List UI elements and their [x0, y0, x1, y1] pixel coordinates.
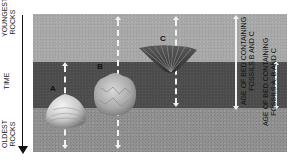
- fossil-b-range-arrow-down-icon: [115, 145, 121, 149]
- range-abc-label-line2: FOSSILS A, B AND C: [270, 36, 278, 128]
- fossil-a-label: A: [50, 84, 56, 93]
- fossil-c-fan-shell-icon: [137, 42, 199, 74]
- range-abc-label: AGE OF BED CONTAINING FOSSILS A, B AND C: [262, 36, 278, 128]
- range-abc-label-line1: AGE OF BED CONTAINING: [262, 36, 270, 128]
- youngest-rocks-label: YOUNGEST ROCKS: [1, 7, 17, 37]
- time-label: TIME: [3, 71, 11, 91]
- oldest-rocks-label: OLDEST ROCKS: [1, 119, 17, 149]
- rocks-line: ROCKS: [9, 119, 17, 149]
- youngest-line: YOUNGEST: [1, 7, 9, 37]
- fossil-b-label: B: [97, 62, 103, 71]
- range-bc-label: AGE OF BED CONTAINING FOSSILS B AND C: [240, 15, 256, 107]
- fossil-c-label: C: [160, 34, 166, 43]
- fossil-c-range-arrow-down-icon: [173, 103, 179, 107]
- fossil-a-range-arrow-down-icon: [62, 145, 68, 149]
- range-bc-label-line1: AGE OF BED CONTAINING: [240, 15, 248, 107]
- time-axis-line: [22, 15, 23, 150]
- oldest-line: OLDEST: [1, 119, 9, 149]
- range-bc-label-line2: FOSSILS B AND C: [248, 15, 256, 107]
- fossil-b-shell-icon: [91, 70, 139, 118]
- time-arrow-icon: [18, 146, 28, 154]
- fossil-a-clam-icon: [43, 92, 89, 130]
- range-bc-line: [235, 19, 237, 107]
- range-bc-arrow-down-icon: [233, 106, 239, 110]
- rocks-line: ROCKS: [9, 7, 17, 37]
